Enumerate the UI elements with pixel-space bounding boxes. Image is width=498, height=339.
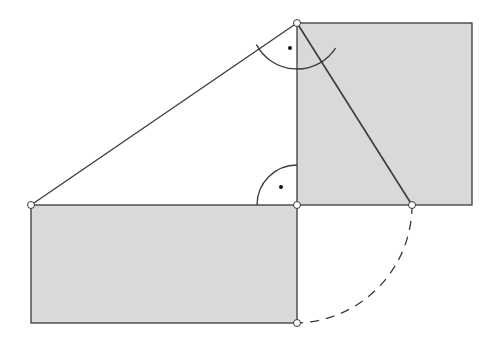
point-d: [409, 202, 416, 209]
point-e: [294, 320, 301, 327]
geometry-diagram: [0, 0, 498, 339]
point-a: [28, 202, 35, 209]
right-angle-dot-top: [288, 46, 292, 50]
point-c: [294, 20, 301, 27]
square-on-leg: [297, 23, 472, 205]
right-angle-dot-bottom: [279, 185, 283, 189]
point-b: [294, 202, 301, 209]
rectangle-on-base: [31, 205, 297, 323]
